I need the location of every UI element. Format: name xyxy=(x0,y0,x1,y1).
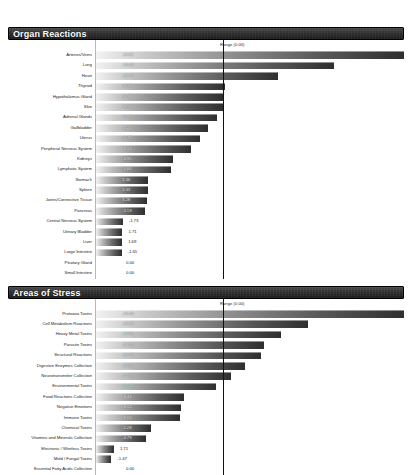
chart-areas-of-stress: Range (0.00) Protozoa Toxins-29.46Cell M… xyxy=(8,299,404,475)
bar-value-label: -16.05 xyxy=(122,340,134,350)
axis-baseline-stress xyxy=(95,299,96,475)
bar xyxy=(96,166,171,174)
bar-track: -8.19 xyxy=(96,102,404,112)
bar-row: Thyroid-8.33 xyxy=(8,81,404,91)
bar xyxy=(96,207,145,215)
bar-row: Stomach3.36 xyxy=(8,175,404,185)
bar-track: -6.13 xyxy=(96,144,404,154)
bar-row: Gallbladder-7.21 xyxy=(8,123,404,133)
bar xyxy=(96,238,122,246)
panel-header-areas-of-stress: Areas of Stress xyxy=(8,286,404,299)
bar xyxy=(96,135,200,143)
bar-row-label: Central Nervous System xyxy=(8,216,92,226)
panel-header-organ-reactions: Organ Reactions xyxy=(8,27,404,40)
bar-value-label: -15.76 xyxy=(122,350,134,360)
bar-track: -12.87 xyxy=(96,371,404,381)
bar-row: Lung-15.40 xyxy=(8,60,404,70)
bar-track: -6.74 xyxy=(96,133,404,143)
bar-value-label: -8.33 xyxy=(122,81,132,91)
bar-row: Environmental Toxins-11.44 xyxy=(8,381,404,391)
bar-value-label: -1.65 xyxy=(128,247,138,257)
panel-organ-reactions: Organ Reactions Range (0.00) Arteries/Ve… xyxy=(8,0,404,279)
bar-rows-areas-of-stress: Protozoa Toxins-29.46Cell Metabolism Rea… xyxy=(8,309,404,475)
bar-row-label: Large Intestine xyxy=(8,247,92,257)
bar-value-label: -5.28 xyxy=(122,423,132,433)
bar xyxy=(96,310,404,318)
bar xyxy=(96,404,181,412)
bar xyxy=(96,114,217,122)
bar-track: -15.76 xyxy=(96,350,404,360)
bar xyxy=(96,93,223,101)
bar-row: Negative Emotions-8.12 xyxy=(8,402,404,412)
bar-row-label: Cell Metabolism Reactions xyxy=(8,319,92,329)
bar-value-label: -4.95 xyxy=(122,154,132,164)
bar-track: -7.21 xyxy=(96,123,404,133)
bar-row: Heavy Metal Toxins-17.68 xyxy=(8,329,404,339)
panel-areas-of-stress: Areas of Stress Range (0.00) Protozoa To… xyxy=(8,279,404,475)
bar xyxy=(96,155,173,163)
reference-divider-organ xyxy=(223,40,224,279)
bar-row-label: Neurotransmitter Collection xyxy=(8,371,92,381)
bar xyxy=(96,145,191,153)
bar-row: Mold / Fungal Toxins-1.47 xyxy=(8,454,404,464)
range-strip-organ: Range (0.00) xyxy=(8,40,404,50)
bar-row: Food Reactions Collection-8.44 xyxy=(8,392,404,402)
bar-row: Urinary Bladder1.71 xyxy=(8,227,404,237)
bar-value-label: -7.21 xyxy=(122,123,132,133)
bar-row-label: Parasite Toxins xyxy=(8,340,92,350)
bar-row-label: Chemical Toxins xyxy=(8,423,92,433)
bar-track: 0.00 xyxy=(96,258,404,268)
bar-row-label: Joints/Connective Tissue xyxy=(8,195,92,205)
bar-row-label: Pituitary Gland xyxy=(8,258,92,268)
bar-row: Structural Reactions-15.76 xyxy=(8,350,404,360)
bar-row-label: Pancreas xyxy=(8,206,92,216)
bar-row-label: Electronic / Wireless Toxins xyxy=(8,444,92,454)
bar-row-label: Skin xyxy=(8,102,92,112)
bar-row: Spleen3.33 xyxy=(8,185,404,195)
bar-track: -1.65 xyxy=(96,247,404,257)
bar-value-label: -11.44 xyxy=(122,381,134,391)
bar-value-label: 0.00 xyxy=(126,464,134,474)
bar-row: Essential Fatty Acids Collection0.00 xyxy=(8,464,404,474)
bar-track: 3.33 xyxy=(96,185,404,195)
bar-track: -4.79 xyxy=(96,433,404,443)
bar-track: 3.28 xyxy=(96,195,404,205)
bar-value-label: 1.71 xyxy=(120,444,128,454)
bar-track: -8.33 xyxy=(96,81,404,91)
bar-value-label: 1.71 xyxy=(128,227,136,237)
bar-row-label: Hypothalamus Gland xyxy=(8,92,92,102)
bar-value-label: -3.19 xyxy=(122,206,132,216)
bar-row: Small Intestine0.00 xyxy=(8,268,404,278)
bar-track: -19.91 xyxy=(96,50,404,60)
bar-row-label: Digestive Enzymes Collection xyxy=(8,361,92,371)
bar-track: -3.19 xyxy=(96,206,404,216)
bar-track: 0.00 xyxy=(96,464,404,474)
bar-value-label: -8.18 xyxy=(122,92,132,102)
bar-track: -5.28 xyxy=(96,423,404,433)
bar xyxy=(96,445,114,453)
bar-track: -17.68 xyxy=(96,329,404,339)
bar-row-label: Food Reactions Collection xyxy=(8,392,92,402)
bar-row: Joints/Connective Tissue3.28 xyxy=(8,195,404,205)
bar xyxy=(96,352,261,360)
bar-value-label: -19.91 xyxy=(122,50,134,60)
bar-row-label: Spleen xyxy=(8,185,92,195)
bar-row-label: Thyroid xyxy=(8,81,92,91)
bar-row-label: Lymphatic System xyxy=(8,164,92,174)
bar-row: Immune Toxins-8.02 xyxy=(8,413,404,423)
bar-value-label: -8.19 xyxy=(122,102,132,112)
report-page: Organ Reactions Range (0.00) Arteries/Ve… xyxy=(0,0,410,475)
bar-value-label: -1.73 xyxy=(129,216,139,226)
bar-row: Adrenal Glands-7.85 xyxy=(8,112,404,122)
bar-row-label: Gallbladder xyxy=(8,123,92,133)
bar-value-label: 3.33 xyxy=(122,185,130,195)
bar-value-label: -17.68 xyxy=(122,329,134,339)
bar-row-label: Stomach xyxy=(8,175,92,185)
bar-row: Pituitary Gland0.00 xyxy=(8,258,404,268)
range-strip-stress: Range (0.00) xyxy=(8,299,404,309)
bar-track: -11.44 xyxy=(96,381,404,391)
bar-track: -15.40 xyxy=(96,60,404,70)
bar-value-label: -11.77 xyxy=(122,71,134,81)
bar-row: Cell Metabolism Reactions-20.23 xyxy=(8,319,404,329)
bar-value-label: -29.46 xyxy=(122,309,134,319)
